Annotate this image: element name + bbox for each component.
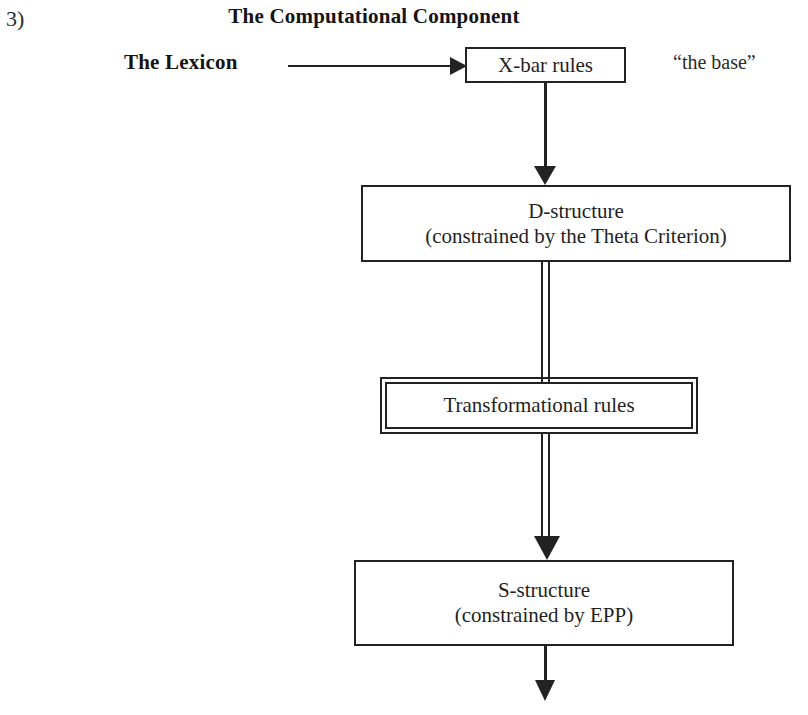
arrowhead-down-icon bbox=[535, 680, 555, 701]
box-s-structure-constraint: (constrained by EPP) bbox=[455, 603, 633, 628]
connector-lexicon-to-xbar-line bbox=[288, 65, 452, 67]
box-xbar-rules-label: X-bar rules bbox=[498, 53, 593, 78]
connector-sstructure-to-next-line bbox=[544, 646, 547, 684]
box-transformational-rules-label: Transformational rules bbox=[443, 393, 634, 418]
arrowhead-down-icon bbox=[534, 166, 556, 185]
box-s-structure: S-structure (constrained by EPP) bbox=[354, 560, 734, 646]
box-d-structure-constraint: (constrained by the Theta Criterion) bbox=[425, 224, 727, 249]
box-d-structure-title: D-structure bbox=[528, 199, 624, 224]
box-xbar-rules: X-bar rules bbox=[465, 47, 626, 83]
box-s-structure-title: S-structure bbox=[498, 578, 590, 603]
diagram-page: 3) The Computational Component The Lexic… bbox=[0, 0, 808, 715]
page-title: The Computational Component bbox=[0, 4, 808, 29]
box-d-structure: D-structure (constrained by the Theta Cr… bbox=[361, 185, 791, 262]
lexicon-label: The Lexicon bbox=[124, 50, 238, 75]
box-transformational-rules: Transformational rules bbox=[385, 382, 693, 429]
base-annotation-label: “the base” bbox=[673, 51, 756, 74]
connector-dstructure-to-transformational-double-line bbox=[541, 262, 550, 383]
connector-transformational-to-sstructure-double-line bbox=[541, 434, 550, 538]
connector-xbar-to-dstructure-line bbox=[544, 83, 547, 169]
arrowhead-down-icon bbox=[534, 536, 560, 560]
